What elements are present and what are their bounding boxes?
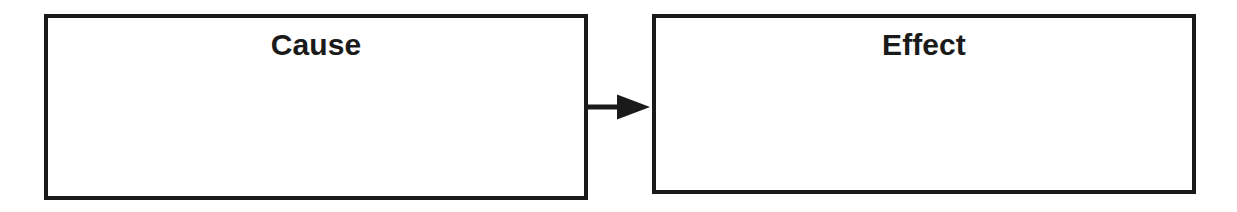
effect-node-label: Effect [656,28,1192,62]
cause-node-label: Cause [48,28,584,62]
effect-node[interactable]: Effect [652,14,1196,194]
cause-node[interactable]: Cause [44,14,588,200]
arrow-right-icon [584,90,654,126]
diagram-canvas: Cause Effect [0,0,1237,212]
